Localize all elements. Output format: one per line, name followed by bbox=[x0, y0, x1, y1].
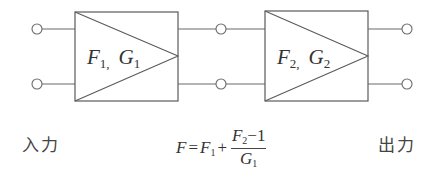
formula-lhs: F bbox=[176, 138, 186, 158]
block-1-noise-figure: F1 bbox=[87, 45, 106, 69]
block-2-noise-figure: F2 bbox=[277, 45, 296, 69]
output-terminal-top bbox=[402, 24, 412, 34]
interstage-terminal-bottom bbox=[216, 79, 226, 89]
formula-numerator: F2−1 bbox=[231, 127, 266, 149]
formula-fraction: F2−1 G1 bbox=[231, 127, 266, 169]
formula-denominator: G1 bbox=[240, 149, 257, 169]
input-terminal-top bbox=[32, 24, 42, 34]
block-1-gain: G1 bbox=[119, 45, 141, 69]
block-2-label: F2,G2 bbox=[277, 47, 330, 70]
input-label: 入力 bbox=[22, 137, 60, 154]
output-label: 出力 bbox=[378, 137, 416, 154]
input-terminal-bottom bbox=[32, 79, 42, 89]
block-2-gain: G2 bbox=[309, 45, 331, 69]
formula-equals: = bbox=[188, 138, 198, 158]
output-terminal-bottom bbox=[402, 79, 412, 89]
block-1-label: F1,G1 bbox=[87, 47, 140, 70]
interstage-terminal-top bbox=[216, 24, 226, 34]
noise-figure-formula: F = F1 + F2−1 G1 bbox=[176, 127, 266, 169]
formula-term1: F1 bbox=[200, 138, 215, 158]
formula-plus: + bbox=[217, 138, 227, 158]
